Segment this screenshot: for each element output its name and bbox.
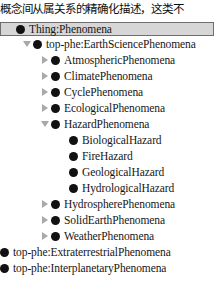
chevron-right-icon[interactable] bbox=[40, 100, 51, 116]
tree-row[interactable]: BiologicalHazard bbox=[0, 132, 218, 148]
owl-class-icon bbox=[51, 232, 60, 241]
owl-class-icon bbox=[51, 200, 60, 209]
tree-row[interactable]: GeologicalHazard bbox=[0, 164, 218, 180]
tree-row[interactable]: top-phe:InterplanetaryPhenomena bbox=[0, 260, 218, 276]
tree-row[interactable]: HydrospherePhenomena bbox=[0, 196, 218, 212]
tree-row[interactable]: EcologicalPhenomena bbox=[0, 100, 218, 116]
tree-item-label: HydrospherePhenomena bbox=[64, 196, 175, 212]
twisty-placeholder-icon bbox=[58, 180, 69, 196]
chevron-down-icon[interactable] bbox=[22, 36, 33, 52]
chevron-right-icon[interactable] bbox=[40, 196, 51, 212]
tree-row[interactable]: SolidEarthPhenomena bbox=[0, 212, 218, 228]
tree-item-label: GeologicalHazard bbox=[82, 164, 164, 180]
owl-class-icon bbox=[51, 120, 60, 129]
twisty-placeholder-icon bbox=[58, 148, 69, 164]
owl-class-icon bbox=[51, 72, 60, 81]
chevron-right-icon[interactable] bbox=[40, 68, 51, 84]
tree-item-label: BiologicalHazard bbox=[82, 132, 162, 148]
owl-class-icon bbox=[33, 40, 42, 49]
tree-item-label: top-phe:InterplanetaryPhenomena bbox=[13, 260, 166, 276]
chevron-right-icon[interactable] bbox=[40, 212, 51, 228]
tree-item-label: HydrologicalHazard bbox=[82, 180, 174, 196]
tree-row[interactable]: top-phe:EarthSciencePhenomena bbox=[0, 36, 218, 52]
tree-item-label: EcologicalPhenomena bbox=[64, 100, 165, 116]
owl-class-icon bbox=[69, 184, 78, 193]
tree-item-label: top-phe:EarthSciencePhenomena bbox=[46, 36, 196, 52]
tree-item-label: CyclePhenomena bbox=[64, 84, 143, 100]
tree-item-label: ClimatePhenomena bbox=[64, 68, 152, 84]
tree-item-label: top-phe:ExtraterrestrialPhenomena bbox=[13, 244, 171, 260]
tree-item-label: AtmosphericPhenomena bbox=[64, 52, 175, 68]
owl-class-icon bbox=[69, 168, 78, 177]
tree-row[interactable]: CyclePhenomena bbox=[0, 84, 218, 100]
owl-class-icon bbox=[16, 25, 25, 34]
owl-class-icon bbox=[51, 104, 60, 113]
twisty-placeholder-icon bbox=[58, 132, 69, 148]
owl-class-icon bbox=[51, 88, 60, 97]
figure-caption-text: 概念间从属关系的精确化描述，这类不 bbox=[0, 0, 218, 19]
tree-item-label: FireHazard bbox=[82, 148, 133, 164]
tree-row[interactable]: AtmosphericPhenomena bbox=[0, 52, 218, 68]
owl-class-icon bbox=[51, 56, 60, 65]
chevron-right-icon[interactable] bbox=[40, 228, 51, 244]
tree-row[interactable]: FireHazard bbox=[0, 148, 218, 164]
ontology-class-hierarchy-tree[interactable]: Thing:Phenomenatop-phe:EarthSciencePheno… bbox=[0, 22, 218, 298]
tree-row[interactable]: top-phe:ExtraterrestrialPhenomena bbox=[0, 244, 218, 260]
owl-class-icon bbox=[69, 152, 78, 161]
tree-item-label: HazardPhenomena bbox=[64, 116, 149, 132]
chevron-down-icon[interactable] bbox=[40, 116, 51, 132]
tree-row-list: Thing:Phenomenatop-phe:EarthSciencePheno… bbox=[0, 22, 218, 276]
owl-class-icon bbox=[51, 216, 60, 225]
tree-row[interactable]: HazardPhenomena bbox=[0, 116, 218, 132]
tree-item-label: Thing:Phenomena bbox=[29, 22, 112, 36]
tree-item-label: SolidEarthPhenomena bbox=[64, 212, 165, 228]
twisty-placeholder-icon bbox=[5, 22, 16, 37]
owl-class-icon bbox=[0, 248, 9, 257]
twisty-placeholder-icon bbox=[58, 164, 69, 180]
tree-row[interactable]: ClimatePhenomena bbox=[0, 68, 218, 84]
tree-row[interactable]: WeatherPhenomena bbox=[0, 228, 218, 244]
chevron-right-icon[interactable] bbox=[40, 84, 51, 100]
tree-item-label: WeatherPhenomena bbox=[64, 228, 154, 244]
chevron-right-icon[interactable] bbox=[40, 52, 51, 68]
tree-row[interactable]: HydrologicalHazard bbox=[0, 180, 218, 196]
tree-row[interactable]: Thing:Phenomena bbox=[0, 22, 214, 36]
owl-class-icon bbox=[0, 264, 9, 273]
owl-class-icon bbox=[69, 136, 78, 145]
